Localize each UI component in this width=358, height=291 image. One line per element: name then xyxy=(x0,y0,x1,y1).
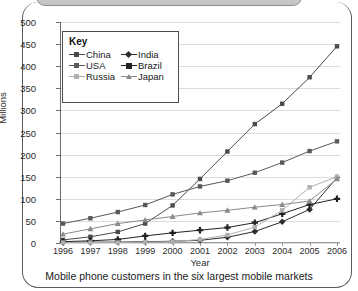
legend-entries: ChinaIndiaUSABrazilRussiaJapan xyxy=(69,49,173,82)
y-tick-label: 200 xyxy=(0,149,36,160)
x-tick-label: 2003 xyxy=(245,246,265,256)
x-tick-label: 2000 xyxy=(163,246,183,256)
data-point-marker xyxy=(116,210,120,214)
y-tick-label: 450 xyxy=(0,39,36,50)
data-point-marker xyxy=(198,184,202,188)
x-tick-label: 2004 xyxy=(272,246,292,256)
y-tick-label: 250 xyxy=(0,127,36,138)
y-tick-label: 0 xyxy=(0,238,36,249)
legend-marker xyxy=(125,50,132,57)
data-point-marker xyxy=(335,44,339,48)
legend-label: India xyxy=(138,49,159,60)
data-point-marker xyxy=(279,219,286,226)
x-tick-mark xyxy=(255,243,256,246)
chart-figure: Millions 050100150200250300350400450500 … xyxy=(0,0,358,291)
data-point-marker xyxy=(280,208,284,212)
legend-row: RussiaJapan xyxy=(69,71,173,82)
legend-title: Key xyxy=(69,36,173,47)
legend-item-brazil[interactable]: Brazil xyxy=(121,60,173,71)
data-point-marker xyxy=(225,233,229,237)
legend-item-japan[interactable]: Japan xyxy=(121,71,173,82)
data-point-marker xyxy=(88,240,92,244)
x-tick-label: 2006 xyxy=(327,246,347,256)
data-point-marker xyxy=(169,230,175,236)
series-line xyxy=(63,199,337,242)
legend-label: USA xyxy=(86,60,106,71)
data-point-marker xyxy=(143,203,147,207)
data-point-marker xyxy=(143,240,147,244)
y-tick-label: 50 xyxy=(0,215,36,226)
legend-marker xyxy=(74,52,79,57)
legend-swatch-square-icon xyxy=(69,72,85,81)
y-tick-label: 150 xyxy=(0,171,36,182)
data-point-marker xyxy=(335,139,339,143)
legend-swatch-square-icon xyxy=(69,61,85,70)
data-point-marker xyxy=(280,102,284,106)
legend-row: USABrazil xyxy=(69,60,173,71)
legend-swatch-diamond-icon xyxy=(121,50,137,59)
data-point-marker xyxy=(307,185,311,189)
data-point-marker xyxy=(61,221,65,225)
data-point-marker xyxy=(198,177,202,181)
legend-item-usa[interactable]: USA xyxy=(69,60,121,71)
x-tick-label: 1996 xyxy=(53,246,73,256)
y-tick-label: 500 xyxy=(0,17,36,28)
legend-marker xyxy=(74,74,79,79)
legend-item-china[interactable]: China xyxy=(69,49,121,60)
data-point-marker xyxy=(253,171,257,175)
data-point-marker xyxy=(253,225,257,229)
y-tick-label: 300 xyxy=(0,105,36,116)
data-point-marker xyxy=(61,240,65,244)
x-tick-mark xyxy=(310,243,311,246)
data-point-marker xyxy=(280,160,284,164)
data-point-marker xyxy=(116,240,120,244)
x-tick-mark xyxy=(337,243,338,246)
legend-label: Russia xyxy=(86,71,115,82)
data-point-marker xyxy=(142,233,148,239)
legend-label: Japan xyxy=(138,71,164,82)
data-point-marker xyxy=(225,149,229,153)
data-point-marker xyxy=(197,227,203,233)
y-tick-mark xyxy=(56,243,60,244)
legend-marker xyxy=(126,74,132,79)
legend-marker xyxy=(74,63,79,68)
x-tick-label: 1999 xyxy=(135,246,155,256)
y-tick-label: 400 xyxy=(0,61,36,72)
x-tick-mark xyxy=(227,243,228,246)
data-point-marker xyxy=(170,239,174,243)
data-point-marker xyxy=(334,196,340,202)
data-point-marker xyxy=(198,237,202,241)
x-axis-title: Year xyxy=(190,257,209,268)
y-tick-label: 350 xyxy=(0,83,36,94)
legend-item-india[interactable]: India xyxy=(121,49,173,60)
data-point-marker xyxy=(225,178,229,182)
chart-legend: Key ChinaIndiaUSABrazilRussiaJapan xyxy=(62,31,179,103)
x-tick-label: 1997 xyxy=(80,246,100,256)
data-point-marker xyxy=(170,192,174,196)
legend-swatch-triangle-icon xyxy=(121,72,137,81)
x-tick-label: 2001 xyxy=(190,246,210,256)
data-point-marker xyxy=(170,203,174,207)
data-point-marker xyxy=(253,122,257,126)
legend-item-russia[interactable]: Russia xyxy=(69,71,121,82)
x-tick-mark xyxy=(282,243,283,246)
legend-marker xyxy=(126,63,132,69)
data-point-marker xyxy=(307,75,311,79)
data-point-marker xyxy=(224,224,230,230)
figure-caption: Mobile phone customers in the six larges… xyxy=(45,270,312,282)
data-point-marker xyxy=(88,216,92,220)
legend-label: Brazil xyxy=(138,60,162,71)
x-tick-label: 2005 xyxy=(300,246,320,256)
legend-row: ChinaIndia xyxy=(69,49,173,60)
y-tick-label: 100 xyxy=(0,193,36,204)
x-tick-label: 2002 xyxy=(217,246,237,256)
data-point-marker xyxy=(307,149,311,153)
legend-swatch-cross-icon xyxy=(121,61,137,70)
legend-swatch-square-icon xyxy=(69,50,85,59)
x-tick-label: 1998 xyxy=(108,246,128,256)
data-point-marker xyxy=(116,230,120,234)
legend-label: China xyxy=(86,49,111,60)
